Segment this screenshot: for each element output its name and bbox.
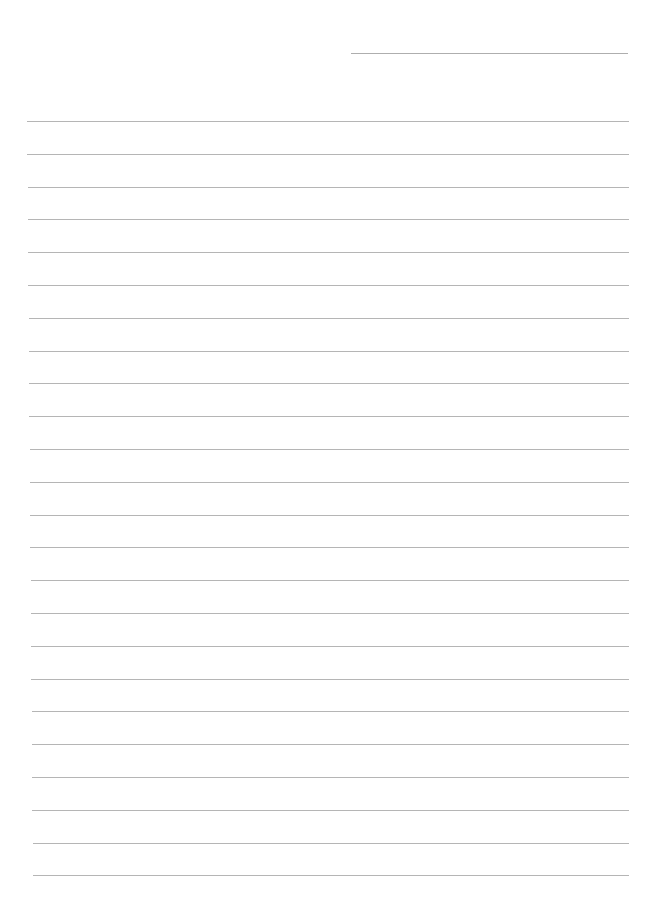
ruled-line — [27, 121, 629, 122]
header-date-line — [351, 53, 628, 54]
ruled-line — [29, 383, 629, 384]
ruled-line — [31, 580, 629, 581]
ruled-line — [29, 318, 629, 319]
ruled-line — [32, 777, 629, 778]
ruled-line — [28, 252, 629, 253]
ruled-line — [29, 351, 629, 352]
ruled-line — [30, 482, 629, 483]
ruled-line — [31, 613, 629, 614]
ruled-line — [32, 711, 629, 712]
ruled-line — [29, 416, 629, 417]
ruled-line — [28, 187, 629, 188]
ruled-line — [33, 875, 629, 876]
ruled-line — [31, 679, 629, 680]
ruled-line — [28, 285, 629, 286]
lined-paper-page — [0, 0, 661, 915]
ruled-line — [30, 547, 629, 548]
ruled-line — [30, 449, 629, 450]
ruled-line — [30, 515, 629, 516]
ruled-line — [28, 219, 629, 220]
ruled-line — [27, 154, 629, 155]
ruled-line — [31, 646, 629, 647]
ruled-line — [33, 843, 629, 844]
ruled-line — [32, 744, 629, 745]
ruled-line — [32, 810, 629, 811]
